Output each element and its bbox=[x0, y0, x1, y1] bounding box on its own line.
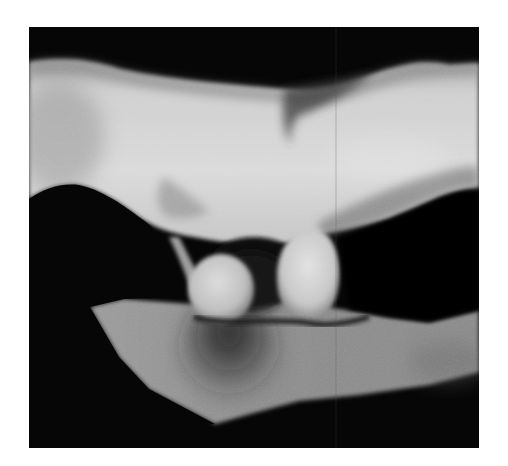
render-image bbox=[29, 27, 479, 448]
bone-render-svg bbox=[29, 27, 479, 448]
grain-overlay bbox=[29, 27, 479, 448]
